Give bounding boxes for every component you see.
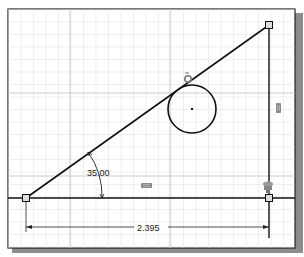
angle-dimension-value[interactable]: 35.00 xyxy=(87,168,110,178)
circle-center-point[interactable] xyxy=(191,108,193,110)
sketch-canvas[interactable]: 35.00 2.395 xyxy=(0,0,304,257)
horizontal-constraint-icon[interactable] xyxy=(141,183,152,188)
linear-dimension-value[interactable]: 2.395 xyxy=(137,223,160,233)
endpoint-left[interactable] xyxy=(23,195,30,202)
endpoint-top[interactable] xyxy=(266,22,273,29)
grid xyxy=(8,9,295,248)
vertical-constraint-icon[interactable] xyxy=(276,103,281,113)
endpoint-right[interactable] xyxy=(266,195,273,202)
